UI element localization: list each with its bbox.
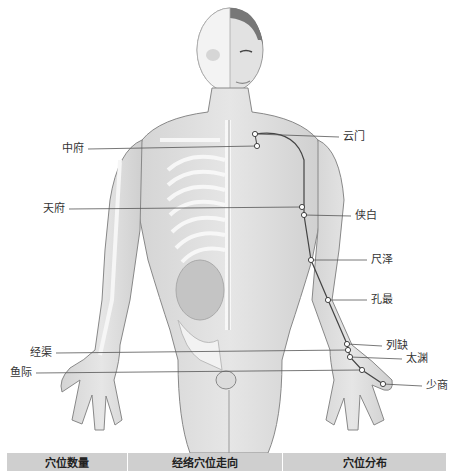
intestines — [176, 260, 224, 320]
right-arm — [312, 140, 392, 430]
acupoint-label: 列缺 — [386, 340, 408, 352]
acupoint-label: 天府 — [43, 203, 65, 215]
acupoint-label: 太渊 — [406, 353, 428, 365]
left-arm — [61, 140, 142, 430]
acupoint-marker — [347, 354, 352, 359]
acupoint-marker — [380, 381, 385, 386]
acupoint-marker — [359, 367, 364, 372]
acupoint-marker — [299, 204, 304, 209]
acupoint-label: 云门 — [343, 131, 365, 143]
groin — [216, 371, 236, 389]
acupoint-marker — [301, 212, 306, 217]
human-body-illustration — [0, 0, 458, 453]
acupoint-label: 孔最 — [371, 294, 393, 306]
acupoint-marker — [345, 347, 350, 352]
header-meridian-direction: 经络穴位走向 — [128, 453, 283, 471]
acupoint-marker — [325, 297, 330, 302]
acupoint-label: 侠白 — [355, 210, 377, 222]
acupoint-label: 鱼际 — [10, 367, 32, 379]
head — [197, 8, 263, 92]
table-header-row: 穴位数量 经络穴位走向 穴位分布 — [7, 453, 446, 471]
acupoint-diagram: 云门中府天府侠白尺泽孔最列缺经渠太渊鱼际少商 — [0, 0, 458, 453]
header-point-distribution: 穴位分布 — [283, 453, 446, 471]
acupoint-label: 中府 — [62, 143, 84, 155]
acupoint-marker — [252, 131, 257, 136]
acupoint-label: 经渠 — [30, 347, 52, 359]
header-point-count: 穴位数量 — [7, 453, 128, 471]
acupoint-marker — [344, 341, 349, 346]
acupoint-label: 少商 — [426, 380, 448, 392]
acupoint-marker — [308, 257, 313, 262]
acupoint-marker — [254, 143, 259, 148]
acupoint-label: 尺泽 — [371, 254, 393, 266]
